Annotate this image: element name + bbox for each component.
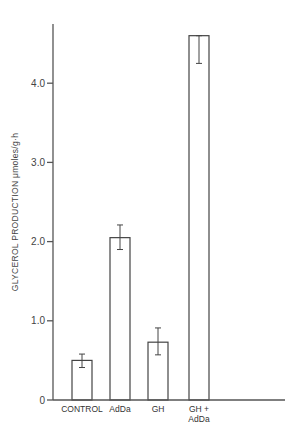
bar-chart: GLYCEROL PRODUCTION μmoles/g·h 01.02.03.…: [0, 0, 300, 441]
y-tick-label: 3.0: [31, 157, 45, 168]
bar-rect: [189, 36, 209, 400]
bar-gh: [148, 328, 168, 400]
bars: [72, 36, 209, 400]
y-tick-label: 2.0: [31, 236, 45, 247]
x-category-label: GH +: [189, 404, 209, 414]
bar-adda: [110, 225, 130, 400]
y-tick-label: 0: [39, 395, 45, 406]
x-category-label: GH: [152, 404, 165, 414]
y-axis-label: GLYCEROL PRODUCTION μmoles/g·h: [10, 133, 20, 291]
bar-control: [72, 354, 92, 400]
x-category-label: CONTROL: [61, 404, 103, 414]
y-tick-label: 1.0: [31, 315, 45, 326]
x-category-label: AdDa: [188, 414, 210, 424]
y-axis-ticks: 01.02.03.04.0: [31, 78, 53, 406]
y-tick-label: 4.0: [31, 78, 45, 89]
y-axis-label-text: GLYCEROL PRODUCTION μmoles/g·h: [10, 133, 20, 291]
x-category-label: AdDa: [109, 404, 131, 414]
x-axis-category-labels: CONTROLAdDaGHGH +AdDa: [61, 404, 210, 424]
axes: [53, 24, 285, 400]
bar-rect: [110, 238, 130, 400]
bar-gh-adda: [189, 36, 209, 400]
